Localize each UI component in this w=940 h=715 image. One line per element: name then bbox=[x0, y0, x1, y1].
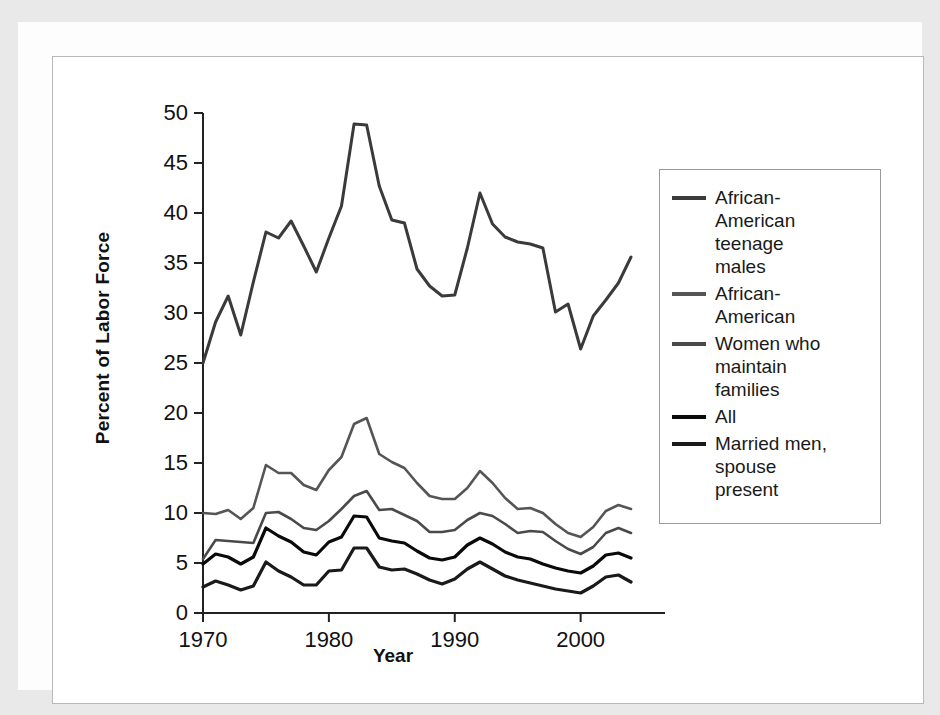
y-axis-tick-label: 15 bbox=[164, 450, 188, 475]
y-axis-tick-label: 25 bbox=[164, 350, 188, 375]
y-axis-tick-label: 45 bbox=[164, 150, 188, 175]
y-axis-tick-label: 10 bbox=[164, 500, 188, 525]
x-axis-title: Year bbox=[173, 645, 613, 667]
legend-item: Women who maintain families bbox=[672, 332, 870, 401]
legend-color-swatch bbox=[672, 442, 706, 446]
legend-item: African- American teenage males bbox=[672, 186, 870, 278]
y-axis-tick-label: 20 bbox=[164, 400, 188, 425]
y-axis-tick-label: 40 bbox=[164, 200, 188, 225]
y-axis-tick-label: 5 bbox=[176, 550, 188, 575]
legend-label: Women who maintain families bbox=[715, 332, 820, 401]
y-axis-title: Percent of Labor Force bbox=[92, 228, 114, 448]
y-axis-tick-label: 0 bbox=[176, 600, 188, 625]
legend-color-swatch bbox=[672, 196, 706, 200]
legend-item: African- American bbox=[672, 282, 870, 328]
series-line bbox=[203, 418, 631, 537]
legend-color-swatch bbox=[672, 292, 706, 296]
y-axis-tick-label: 30 bbox=[164, 300, 188, 325]
legend-label: African- American bbox=[715, 282, 795, 328]
chart-legend: African- American teenage malesAfrican- … bbox=[659, 169, 881, 524]
legend-item: Married men, spouse present bbox=[672, 432, 870, 501]
page-inner: 051015202530354045501970198019902000 Per… bbox=[18, 22, 922, 690]
legend-color-swatch bbox=[672, 342, 706, 346]
legend-label: African- American teenage males bbox=[715, 186, 795, 278]
series-line bbox=[203, 491, 631, 559]
y-axis-tick-label: 50 bbox=[164, 100, 188, 125]
y-axis-tick-label: 35 bbox=[164, 250, 188, 275]
legend-color-swatch bbox=[672, 415, 706, 419]
figure-container: 051015202530354045501970198019902000 Per… bbox=[52, 56, 924, 704]
line-chart: 051015202530354045501970198019902000 Per… bbox=[53, 57, 925, 705]
series-line bbox=[203, 124, 631, 363]
legend-label: All bbox=[715, 405, 736, 428]
page-frame: 051015202530354045501970198019902000 Per… bbox=[0, 0, 940, 715]
legend-item: All bbox=[672, 405, 870, 428]
legend-label: Married men, spouse present bbox=[715, 432, 827, 501]
